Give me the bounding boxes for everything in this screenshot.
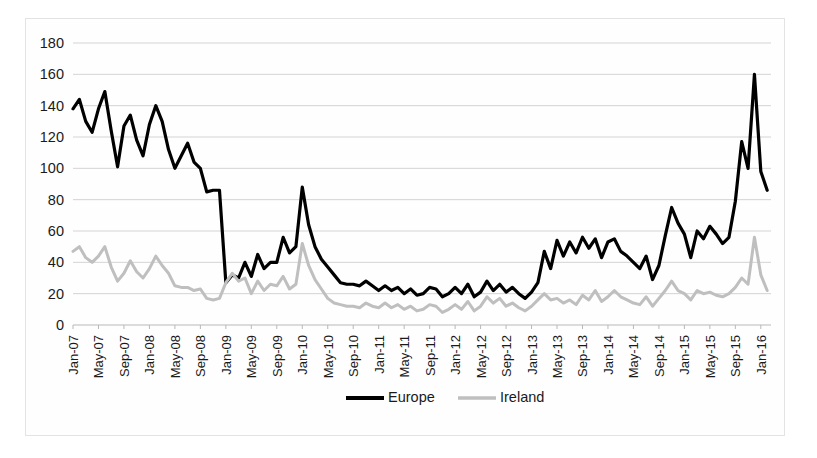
y-axis-tick-label: 40 bbox=[48, 254, 64, 270]
x-axis-tick-label: Jan-12 bbox=[448, 335, 463, 375]
x-axis-tick-label: Jan-16 bbox=[754, 335, 769, 375]
x-axis-tick-label: Jan-07 bbox=[66, 335, 81, 375]
x-axis-tick-label: Sep-14 bbox=[652, 335, 667, 377]
x-axis-tick-label: May-10 bbox=[321, 335, 336, 378]
y-axis-tick-label: 120 bbox=[40, 129, 64, 145]
y-gridlines bbox=[73, 43, 771, 325]
x-axis-tick-label: Jan-08 bbox=[142, 335, 157, 375]
x-axis-tick-label: Sep-09 bbox=[270, 335, 285, 377]
x-axis-tick-label: Sep-10 bbox=[346, 335, 361, 377]
legend-label-ireland: Ireland bbox=[500, 389, 544, 405]
y-axis-tick-label: 60 bbox=[48, 223, 64, 239]
legend-label-europe: Europe bbox=[388, 389, 435, 405]
x-axis-tick-label: May-15 bbox=[703, 335, 718, 378]
x-axis-tick-label: May-08 bbox=[168, 335, 183, 378]
x-axis-tick-label: May-12 bbox=[474, 335, 489, 378]
x-axis-tick-label: Sep-15 bbox=[728, 335, 743, 377]
x-axis-tick-label: Jan-15 bbox=[677, 335, 692, 375]
series-line-europe bbox=[73, 74, 767, 298]
y-axis-tick-label: 180 bbox=[40, 35, 64, 51]
y-axis-tick-label: 80 bbox=[48, 192, 64, 208]
line-chart: 020406080100120140160180Jan-07May-07Sep-… bbox=[26, 19, 784, 435]
y-axis-tick-label: 20 bbox=[48, 286, 64, 302]
x-axis-ticks bbox=[73, 325, 761, 329]
x-axis-tick-label: Sep-08 bbox=[193, 335, 208, 377]
x-axis-tick-label: May-13 bbox=[550, 335, 565, 378]
x-axis-tick-label: Jan-09 bbox=[219, 335, 234, 375]
x-axis-tick-label: May-11 bbox=[397, 335, 412, 377]
x-axis-tick-label: Jan-14 bbox=[601, 335, 616, 375]
x-axis-tick-label: Sep-07 bbox=[117, 335, 132, 377]
y-axis-tick-label: 100 bbox=[40, 160, 64, 176]
x-axis-tick-label: Jan-13 bbox=[525, 335, 540, 375]
x-axis-tick-label: May-07 bbox=[91, 335, 106, 378]
x-axis-tick-label: Jan-10 bbox=[295, 335, 310, 375]
y-axis-tick-label: 0 bbox=[56, 317, 64, 333]
x-axis-tick-label: Sep-13 bbox=[575, 335, 590, 377]
x-axis-tick-label: Jan-11 bbox=[372, 335, 387, 374]
x-axis-tick-label: May-09 bbox=[244, 335, 259, 378]
x-axis-tick-label: Sep-11 bbox=[423, 335, 438, 376]
y-axis-tick-label: 140 bbox=[40, 98, 64, 114]
x-axis-tick-label: Sep-12 bbox=[499, 335, 514, 377]
x-axis-tick-label: May-14 bbox=[626, 335, 641, 378]
chart-container: 020406080100120140160180Jan-07May-07Sep-… bbox=[25, 18, 785, 436]
chart-legend: EuropeIreland bbox=[346, 389, 544, 405]
y-axis-tick-label: 160 bbox=[40, 66, 64, 82]
